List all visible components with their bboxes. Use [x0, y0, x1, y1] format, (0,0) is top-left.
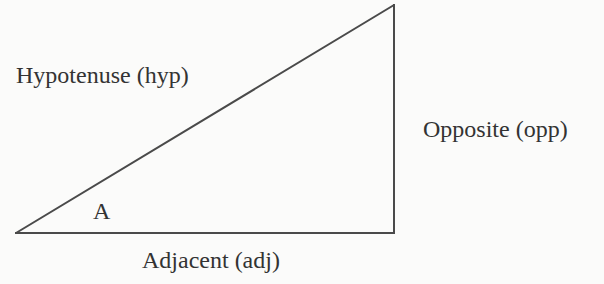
right-triangle: [16, 5, 394, 233]
right-triangle-diagram: Hypotenuse (hyp) Opposite (opp) Adjacent…: [0, 0, 604, 284]
opposite-label: Opposite (opp): [423, 116, 568, 142]
adjacent-label: Adjacent (adj): [142, 247, 280, 273]
hypotenuse-label: Hypotenuse (hyp): [16, 62, 189, 88]
hypotenuse-side: [16, 5, 394, 233]
angle-a-label: A: [93, 198, 111, 224]
diagram-canvas: Hypotenuse (hyp) Opposite (opp) Adjacent…: [0, 0, 604, 284]
